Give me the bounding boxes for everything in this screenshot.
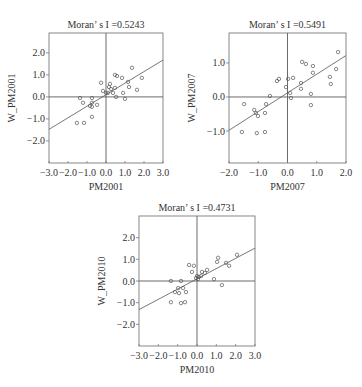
data-point bbox=[255, 131, 258, 134]
data-point bbox=[304, 62, 307, 65]
y-tick-label: 2.0 bbox=[123, 232, 136, 243]
x-tick-label: −3.0 bbox=[40, 167, 58, 178]
data-point bbox=[288, 91, 291, 94]
data-point bbox=[275, 79, 278, 82]
data-point bbox=[169, 301, 172, 304]
data-point bbox=[291, 76, 294, 79]
x-tick-label: 2.0 bbox=[340, 167, 353, 178]
data-point bbox=[215, 260, 218, 263]
y-tick-label: 1.0 bbox=[33, 69, 46, 80]
x-tick-label: −3.0 bbox=[130, 350, 148, 361]
moran-plot-pm2007: Moran’ s I =0.5491−2.0−1.00.01.02.01.00.… bbox=[186, 19, 352, 192]
data-point bbox=[181, 286, 184, 289]
data-point bbox=[183, 301, 186, 304]
data-point bbox=[334, 67, 337, 70]
data-point bbox=[309, 103, 312, 106]
x-axis-title: PM2001 bbox=[89, 181, 123, 192]
x-axis-title: PM2007 bbox=[270, 181, 304, 192]
y-tick-label: 1.0 bbox=[123, 254, 136, 265]
data-point bbox=[264, 102, 267, 105]
data-point bbox=[135, 88, 138, 91]
data-point bbox=[82, 121, 85, 124]
data-point bbox=[179, 301, 182, 304]
data-point bbox=[309, 92, 312, 95]
data-point bbox=[328, 75, 331, 78]
data-point bbox=[263, 111, 266, 114]
data-point bbox=[216, 256, 219, 259]
y-tick-label: −2.0 bbox=[117, 319, 135, 330]
y-axis-title: W_PM2010 bbox=[96, 257, 107, 306]
data-point bbox=[90, 115, 93, 118]
data-point bbox=[227, 264, 230, 267]
data-point bbox=[184, 290, 187, 293]
x-tick-label: 1.0 bbox=[210, 350, 223, 361]
data-point bbox=[329, 82, 332, 85]
y-axis-title: W_PM2001 bbox=[6, 74, 17, 123]
data-point bbox=[190, 270, 193, 273]
data-point bbox=[140, 76, 143, 79]
plot-title: Moran’ s I =0.4731 bbox=[158, 202, 235, 213]
moran-scatter-figure: Moran’ s I =0.5243−3.0−2.0−1.00.01.02.03… bbox=[0, 0, 362, 387]
x-tick-label: −1.0 bbox=[78, 167, 96, 178]
data-point bbox=[109, 87, 112, 90]
data-point bbox=[99, 81, 102, 84]
data-point bbox=[107, 85, 110, 88]
data-point bbox=[243, 102, 246, 105]
x-tick-label: 0.0 bbox=[191, 350, 204, 361]
x-tick-label: 1.0 bbox=[119, 167, 132, 178]
x-tick-label: 2.0 bbox=[229, 350, 242, 361]
data-point bbox=[123, 97, 126, 100]
data-point bbox=[240, 130, 243, 133]
data-point bbox=[120, 76, 123, 79]
data-point bbox=[121, 91, 124, 94]
data-point bbox=[75, 121, 78, 124]
moran-plot-pm2010: Moran’ s I =0.4731−3.0−2.0−1.00.01.02.03… bbox=[96, 202, 261, 375]
x-tick-label: 3.0 bbox=[249, 350, 262, 361]
data-point bbox=[336, 50, 339, 53]
data-point bbox=[311, 64, 314, 67]
data-point bbox=[95, 103, 98, 106]
x-tick-label: −2.0 bbox=[220, 167, 238, 178]
x-tick-label: −2.0 bbox=[149, 350, 167, 361]
y-tick-label: 2.0 bbox=[33, 47, 46, 58]
x-tick-label: −1.0 bbox=[249, 167, 267, 178]
data-point bbox=[263, 130, 266, 133]
data-point bbox=[111, 91, 114, 94]
x-tick-label: 0.0 bbox=[100, 167, 113, 178]
plot-title: Moran’ s I =0.5243 bbox=[67, 19, 144, 30]
x-tick-label: 3.0 bbox=[157, 167, 170, 178]
data-point bbox=[192, 264, 195, 267]
y-tick-label: 0.0 bbox=[33, 91, 46, 102]
y-tick-label: −1.0 bbox=[27, 113, 45, 124]
data-point bbox=[205, 268, 208, 271]
data-point bbox=[177, 291, 180, 294]
x-tick-label: 2.0 bbox=[138, 167, 151, 178]
y-tick-label: −2.0 bbox=[27, 135, 45, 146]
data-point bbox=[187, 263, 190, 266]
y-tick-label: −1.0 bbox=[117, 297, 135, 308]
data-point bbox=[311, 71, 314, 74]
data-point bbox=[235, 253, 238, 256]
y-tick-label: 0.0 bbox=[123, 276, 136, 287]
data-point bbox=[277, 77, 280, 80]
data-point bbox=[130, 66, 133, 69]
y-tick-label: −1.0 bbox=[207, 126, 225, 137]
y-axis-title: W_PM2007 bbox=[186, 74, 197, 123]
data-point bbox=[299, 87, 302, 90]
x-tick-label: 1.0 bbox=[311, 167, 324, 178]
data-point bbox=[256, 114, 259, 117]
data-point bbox=[220, 283, 223, 286]
data-point bbox=[286, 77, 289, 80]
data-point bbox=[127, 85, 130, 88]
x-tick-label: −1.0 bbox=[169, 350, 187, 361]
x-axis-title: PM2010 bbox=[180, 364, 214, 375]
x-tick-label: −2.0 bbox=[59, 167, 77, 178]
y-tick-label: 0.0 bbox=[213, 91, 226, 102]
moran-plot-pm2001: Moran’ s I =0.5243−3.0−2.0−1.00.01.02.03… bbox=[6, 19, 169, 192]
data-point bbox=[300, 60, 303, 63]
data-point bbox=[81, 101, 84, 104]
data-point bbox=[212, 277, 215, 280]
x-tick-label: 0.0 bbox=[281, 167, 294, 178]
y-tick-label: 1.0 bbox=[213, 57, 226, 68]
plot-title: Moran’ s I =0.5491 bbox=[249, 19, 326, 30]
